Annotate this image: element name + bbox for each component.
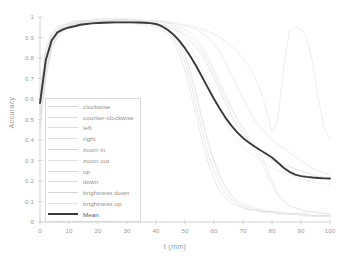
chart-legend: clockwisecounter-clockwiseleftrightzoom … bbox=[45, 98, 141, 222]
y-tick-label: 0 bbox=[10, 218, 34, 225]
legend-label: zoom out bbox=[83, 157, 109, 164]
legend-swatch-line bbox=[48, 127, 78, 128]
x-tick-label: 100 bbox=[318, 227, 342, 234]
legend-swatch-line bbox=[48, 117, 78, 118]
x-tick-label: 10 bbox=[57, 227, 81, 234]
legend-swatch-line bbox=[48, 192, 78, 193]
legend-swatch-line bbox=[48, 160, 78, 161]
x-tick-label: 70 bbox=[231, 227, 255, 234]
x-tick-label: 30 bbox=[115, 227, 139, 234]
legend-item-right[interactable]: right bbox=[46, 133, 140, 144]
chart-figure: 00.10.20.30.40.50.60.70.80.91 0102030405… bbox=[0, 0, 345, 259]
legend-label: brightness down bbox=[83, 189, 130, 196]
legend-label: clockwise bbox=[83, 103, 110, 110]
y-tick-label: 0.8 bbox=[10, 54, 34, 61]
y-tick-label: 0.2 bbox=[10, 177, 34, 184]
legend-swatch-line bbox=[48, 149, 78, 150]
x-tick-label: 50 bbox=[173, 227, 197, 234]
legend-label: zoom in bbox=[83, 146, 105, 153]
x-tick-label: 20 bbox=[86, 227, 110, 234]
legend-swatch-line bbox=[48, 213, 78, 215]
y-tick-label: 0.3 bbox=[10, 157, 34, 164]
legend-swatch-line bbox=[48, 171, 78, 172]
y-tick-label: 1 bbox=[10, 13, 34, 20]
legend-item-Mean[interactable]: Mean bbox=[46, 209, 140, 220]
legend-item-down[interactable]: down bbox=[46, 177, 140, 188]
legend-item-left[interactable]: left bbox=[46, 123, 140, 134]
x-tick-label: 80 bbox=[260, 227, 284, 234]
legend-swatch-line bbox=[48, 138, 78, 139]
legend-swatch-line bbox=[48, 203, 78, 204]
legend-label: left bbox=[83, 124, 92, 131]
y-tick-label: 0.1 bbox=[10, 198, 34, 205]
x-tick-label: 60 bbox=[202, 227, 226, 234]
legend-label: down bbox=[83, 178, 98, 185]
legend-item-brightness-down[interactable]: brightness down bbox=[46, 187, 140, 198]
legend-label: counter-clockwise bbox=[83, 114, 134, 121]
legend-item-zoom-in[interactable]: zoom in bbox=[46, 144, 140, 155]
legend-item-clockwise[interactable]: clockwise bbox=[46, 101, 140, 112]
legend-label: brightness up bbox=[83, 200, 121, 207]
legend-swatch-line bbox=[48, 181, 78, 182]
y-axis-label: Accuracy bbox=[7, 83, 16, 143]
legend-swatch-line bbox=[48, 106, 78, 107]
y-tick-label: 0.9 bbox=[10, 34, 34, 41]
legend-item-brightness-up[interactable]: brightness up bbox=[46, 198, 140, 209]
x-tick-label: 40 bbox=[144, 227, 168, 234]
legend-label: Mean bbox=[83, 211, 99, 218]
x-tick-label: 0 bbox=[28, 227, 52, 234]
x-axis-label: t (mm) bbox=[140, 242, 210, 251]
legend-item-zoom-out[interactable]: zoom out bbox=[46, 155, 140, 166]
legend-label: up bbox=[83, 168, 90, 175]
legend-item-up[interactable]: up bbox=[46, 166, 140, 177]
x-tick-label: 90 bbox=[289, 227, 313, 234]
legend-item-counter-clockwise[interactable]: counter-clockwise bbox=[46, 112, 140, 123]
y-tick-label: 0.7 bbox=[10, 75, 34, 82]
legend-label: right bbox=[83, 135, 96, 142]
